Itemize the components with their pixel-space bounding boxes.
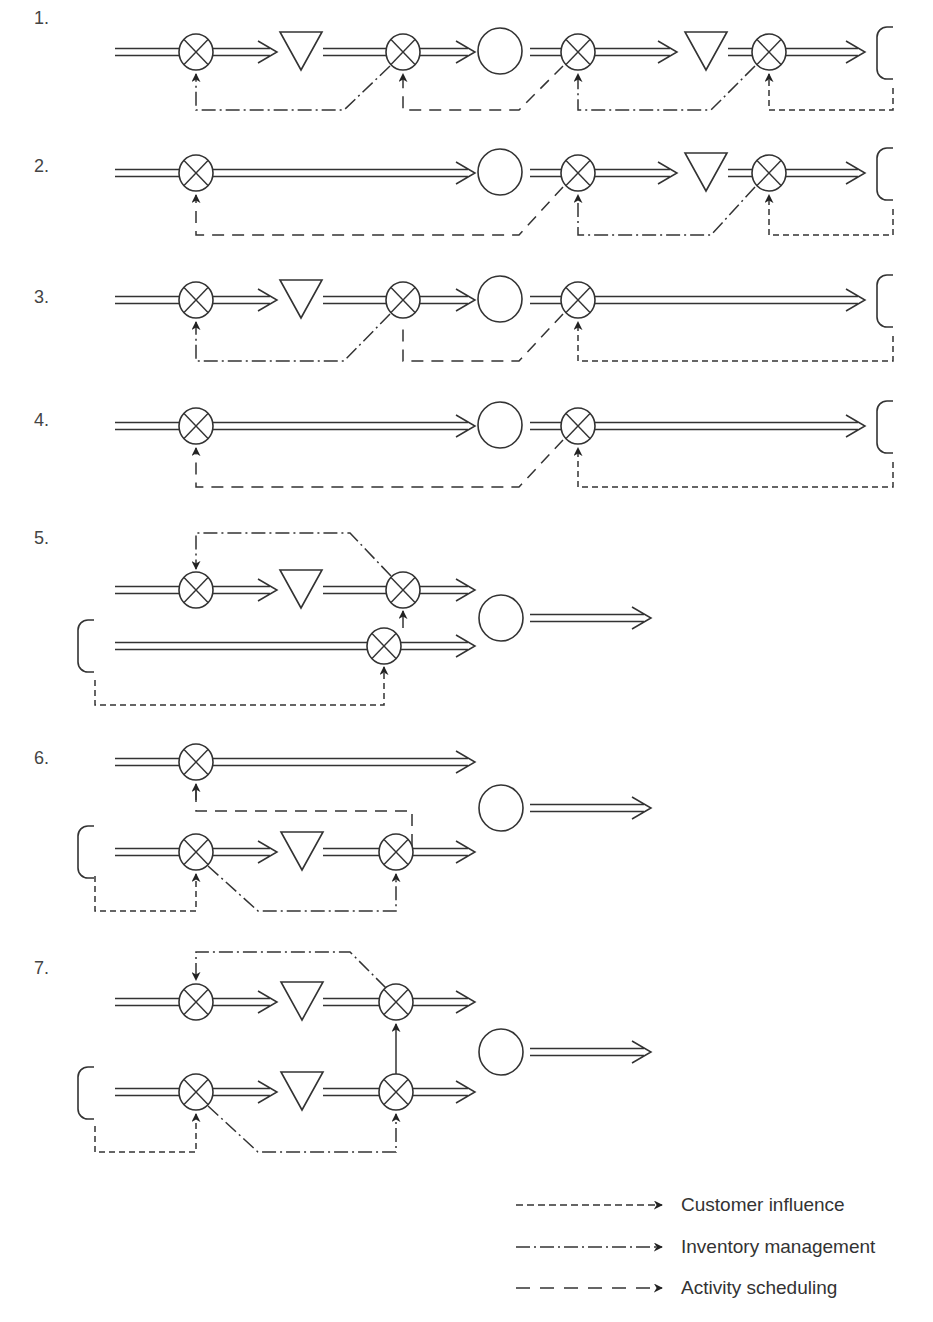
- control-point-icon: [179, 34, 213, 70]
- legend-lines: [516, 1205, 662, 1288]
- inventory-triangle-icon: [685, 32, 727, 70]
- legend-customer-influence: Customer influence: [681, 1194, 845, 1216]
- legend-activity-scheduling: Activity scheduling: [681, 1277, 837, 1299]
- control-point-icon: [386, 34, 420, 70]
- inventory-triangle-icon: [280, 32, 322, 70]
- customer-icon: [877, 27, 893, 79]
- control-point-icon: [561, 34, 595, 70]
- row-7: [95, 952, 651, 1152]
- process-flow-diagram: [0, 0, 933, 1322]
- row-6: [95, 751, 651, 911]
- control-point-icon: [752, 34, 786, 70]
- activity-circle-icon: [478, 28, 522, 74]
- row-5: [95, 533, 651, 705]
- legend-inventory-management: Inventory management: [681, 1236, 875, 1258]
